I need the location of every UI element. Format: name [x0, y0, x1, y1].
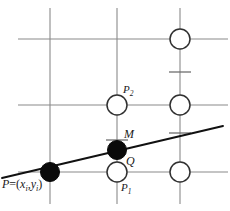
lattice-node-open-mid-right [170, 95, 190, 115]
label-point-p1: P1 [121, 182, 131, 196]
lattice-node-open-bottom-right [170, 162, 190, 182]
label-p1-sub: 1 [128, 187, 132, 196]
label-p-equals: =( [9, 177, 20, 191]
label-p-close: ) [38, 177, 42, 191]
lattice-node-open-top-right [170, 29, 190, 49]
label-p2-sub: 2 [130, 89, 134, 98]
label-point-p2: P2 [123, 84, 133, 98]
point-p-origin-marker [41, 163, 60, 182]
lattice-node-open-p2 [107, 95, 127, 115]
lattice-node-open-p1 [107, 162, 127, 182]
label-p2-base: P [123, 83, 130, 95]
point-m-midpoint-marker [108, 141, 127, 160]
label-point-m: M [124, 128, 134, 140]
label-point-p-origin: P=(xi,yi) [2, 178, 42, 194]
label-point-q: Q [126, 155, 135, 167]
label-p1-base: P [121, 181, 128, 193]
figure-container: P=(xi,yi) P2 M Q P1 [0, 0, 230, 211]
